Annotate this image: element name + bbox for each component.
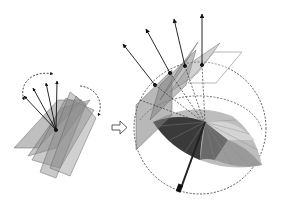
umbrella — [153, 109, 262, 193]
diagram-canvas — [0, 0, 281, 210]
transition-arrow-icon — [112, 121, 127, 134]
left-plane-stack — [14, 92, 96, 178]
